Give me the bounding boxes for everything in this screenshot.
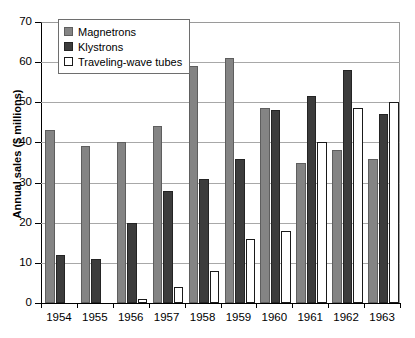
bar bbox=[343, 70, 353, 303]
x-tick-label: 1959 bbox=[221, 312, 257, 324]
x-tick-mark bbox=[292, 303, 293, 308]
y-tick-label: 30 bbox=[0, 177, 32, 189]
y-tick-mark bbox=[35, 223, 41, 224]
bar bbox=[332, 150, 342, 303]
legend-swatch-icon-traveling-wave-tubes bbox=[64, 57, 73, 66]
bar bbox=[296, 163, 306, 304]
bar bbox=[45, 130, 55, 303]
x-tick-label: 1955 bbox=[77, 312, 113, 324]
x-tick-mark bbox=[256, 303, 257, 308]
x-tick-mark bbox=[328, 303, 329, 308]
bar bbox=[153, 126, 163, 303]
legend-label-klystrons: Klystrons bbox=[78, 41, 123, 53]
x-tick-label: 1963 bbox=[364, 312, 400, 324]
y-tick-mark bbox=[35, 142, 41, 143]
y-tick-label: 60 bbox=[0, 56, 32, 68]
x-tick-label: 1961 bbox=[292, 312, 328, 324]
bar bbox=[210, 271, 220, 303]
y-tick-label: 70 bbox=[0, 16, 32, 28]
x-tick-label: 1958 bbox=[185, 312, 221, 324]
bar bbox=[163, 191, 173, 303]
bar bbox=[246, 239, 256, 303]
y-tick-label: 20 bbox=[0, 217, 32, 229]
legend: Magnetrons Klystrons Traveling-wave tube… bbox=[58, 19, 190, 74]
bar bbox=[56, 255, 66, 303]
bar bbox=[271, 110, 281, 303]
bar bbox=[317, 142, 327, 303]
bar bbox=[307, 96, 317, 303]
legend-label-traveling-wave-tubes: Traveling-wave tubes bbox=[78, 56, 182, 68]
x-tick-mark bbox=[149, 303, 150, 308]
bar bbox=[138, 299, 148, 303]
y-tick-mark bbox=[35, 263, 41, 264]
y-tick-label: 0 bbox=[0, 297, 32, 309]
legend-item-traveling-wave-tubes: Traveling-wave tubes bbox=[64, 54, 182, 69]
x-tick-label: 1960 bbox=[256, 312, 292, 324]
x-tick-label: 1957 bbox=[149, 312, 185, 324]
x-tick-mark bbox=[113, 303, 114, 308]
bar bbox=[389, 102, 399, 303]
bar bbox=[379, 114, 389, 303]
bar bbox=[281, 231, 291, 303]
bar bbox=[235, 159, 245, 304]
bar bbox=[81, 146, 91, 303]
x-tick-label: 1954 bbox=[41, 312, 77, 324]
y-tick-label: 40 bbox=[0, 136, 32, 148]
bar bbox=[91, 259, 101, 303]
bar bbox=[199, 179, 209, 303]
bar bbox=[260, 108, 270, 303]
legend-swatch-icon-magnetrons bbox=[64, 27, 73, 36]
bar bbox=[368, 159, 378, 304]
y-tick-mark bbox=[35, 62, 41, 63]
y-tick-label: 50 bbox=[0, 96, 32, 108]
y-tick-mark bbox=[35, 102, 41, 103]
x-tick-label: 1956 bbox=[113, 312, 149, 324]
x-tick-mark bbox=[400, 303, 401, 308]
bar bbox=[189, 66, 199, 303]
x-tick-mark bbox=[185, 303, 186, 308]
bar bbox=[117, 142, 127, 303]
legend-swatch-icon-klystrons bbox=[64, 42, 73, 51]
bar bbox=[127, 223, 137, 303]
x-tick-mark bbox=[41, 303, 42, 308]
legend-item-magnetrons: Magnetrons bbox=[64, 24, 182, 39]
legend-label-magnetrons: Magnetrons bbox=[78, 26, 136, 38]
bar-chart: Annual sales ($ millions) 01020304050607… bbox=[0, 0, 415, 338]
y-tick-mark bbox=[35, 22, 41, 23]
legend-item-klystrons: Klystrons bbox=[64, 39, 182, 54]
bar bbox=[174, 287, 184, 303]
y-tick-mark bbox=[35, 183, 41, 184]
bar bbox=[225, 58, 235, 303]
bar bbox=[353, 108, 363, 303]
x-tick-mark bbox=[221, 303, 222, 308]
y-tick-label: 10 bbox=[0, 257, 32, 269]
x-tick-mark bbox=[364, 303, 365, 308]
x-tick-mark bbox=[77, 303, 78, 308]
x-tick-label: 1962 bbox=[328, 312, 364, 324]
